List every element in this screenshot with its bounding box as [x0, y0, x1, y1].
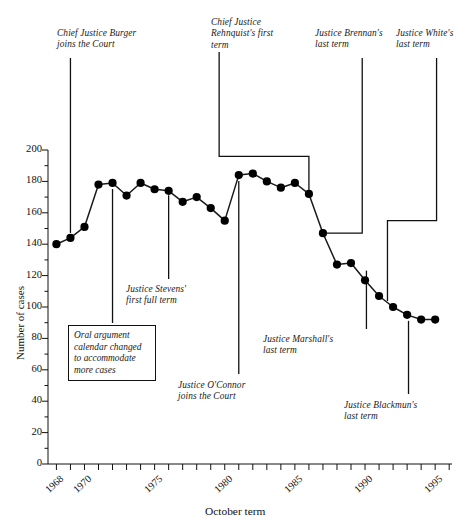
- data-point: [136, 179, 144, 187]
- x-axis-ticks: [56, 464, 449, 470]
- annotation-blackmun: Justice Blackmun's last term: [344, 400, 417, 423]
- data-point: [52, 240, 60, 248]
- data-point: [108, 179, 116, 187]
- data-point: [431, 315, 439, 323]
- data-point: [193, 193, 201, 201]
- data-point: [417, 315, 425, 323]
- annotation-oconnor: Justice O'Connor joins the Court: [178, 380, 245, 403]
- data-point: [165, 187, 173, 195]
- data-point: [277, 184, 285, 192]
- data-point: [333, 261, 341, 269]
- y-tick-label: 0: [12, 457, 42, 468]
- data-point: [347, 259, 355, 267]
- data-point: [389, 303, 397, 311]
- y-tick-label: 200: [12, 143, 42, 154]
- data-point: [361, 276, 369, 284]
- data-point: [235, 171, 243, 179]
- x-axis-title: October term: [205, 505, 265, 517]
- data-point: [122, 191, 130, 199]
- data-point: [179, 198, 187, 206]
- data-point: [221, 217, 229, 225]
- data-point: [249, 169, 257, 177]
- annotation-rehnquist: Chief Justice Rehnquist's first term: [211, 17, 273, 51]
- leader-brennan: [323, 58, 362, 233]
- data-point: [151, 185, 159, 193]
- y-tick-label: 160: [12, 206, 42, 217]
- data-point: [263, 177, 271, 185]
- data-point: [403, 311, 411, 319]
- data-point: [207, 204, 215, 212]
- y-tick-label: 120: [12, 269, 42, 280]
- y-axis-ticks: [42, 150, 48, 464]
- line-chart-plot: [0, 0, 471, 526]
- data-point: [66, 234, 74, 242]
- data-point: [80, 223, 88, 231]
- annotation-white: Justice White's last term: [396, 28, 453, 51]
- annotation-marshall: Justice Marshall's last term: [263, 334, 333, 357]
- data-point: [375, 292, 383, 300]
- data-point-markers: [52, 169, 439, 323]
- data-point: [319, 229, 327, 237]
- annotation-burger: Chief Justice Burger joins the Court: [57, 28, 136, 51]
- data-point: [291, 179, 299, 187]
- y-tick-label: 140: [12, 237, 42, 248]
- y-tick-label: 40: [12, 394, 42, 405]
- annotation-oral-argument: Oral argument calendar changed to accomm…: [68, 325, 156, 381]
- chart-root: 200180160140120100806040200 196819701975…: [0, 0, 471, 526]
- data-point: [94, 180, 102, 188]
- annotation-brennan: Justice Brennan's last term: [315, 28, 383, 51]
- y-axis-title: Number of cases: [14, 286, 26, 360]
- leader-rehnquist: [219, 52, 309, 193]
- y-tick-label: 60: [12, 363, 42, 374]
- y-tick-label: 20: [12, 426, 42, 437]
- y-tick-label: 180: [12, 174, 42, 185]
- leader-white: [387, 58, 436, 301]
- data-point: [305, 190, 313, 198]
- annotation-stevens: Justice Stevens' first full term: [126, 284, 186, 307]
